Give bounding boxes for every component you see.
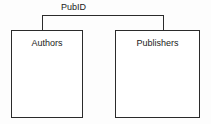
relationship-connector-drop-publishers [163, 15, 164, 31]
entity-box-publishers[interactable]: Publishers [115, 30, 200, 118]
entity-label-authors: Authors [12, 38, 82, 49]
relationship-connector-horizontal [42, 15, 164, 16]
relationship-connector-drop-authors [42, 15, 43, 31]
entity-box-authors[interactable]: Authors [11, 30, 83, 118]
entity-label-publishers: Publishers [116, 38, 199, 49]
relationship-key-label: PubID [61, 1, 86, 13]
er-diagram-canvas: PubID Authors Publishers [0, 0, 211, 124]
